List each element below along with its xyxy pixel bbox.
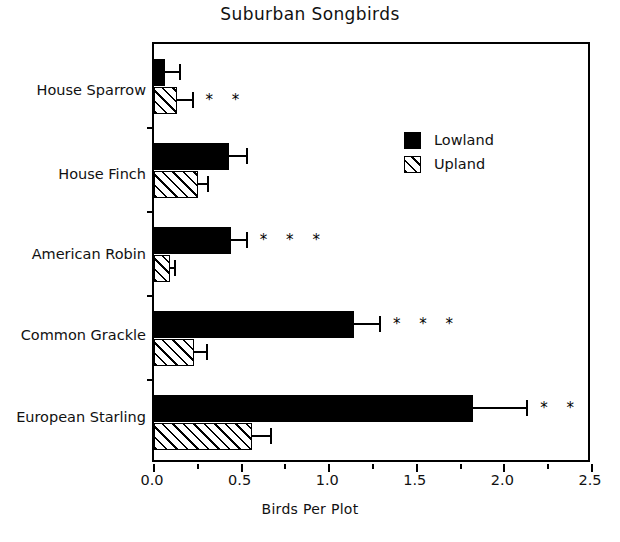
x-tick-label-1.5: 1.5 <box>385 472 445 488</box>
significance-stars: * * <box>540 401 581 416</box>
y-tick <box>147 127 154 129</box>
bar-upland-house-finch <box>154 171 198 198</box>
error-bar-line <box>252 435 271 437</box>
legend: Lowland Upland <box>404 128 494 176</box>
error-bar-cap <box>207 176 209 192</box>
x-tick-1.0 <box>328 464 330 472</box>
error-bar-line <box>229 155 247 157</box>
category-label-house-sparrow: House Sparrow <box>0 82 146 98</box>
chart-title: Suburban Songbirds <box>0 4 620 24</box>
x-tick-2.5 <box>591 464 593 472</box>
error-bar-cap <box>179 64 181 80</box>
bar-lowland-european-starling <box>154 395 473 422</box>
x-tick-minor <box>460 464 462 469</box>
legend-label-upland: Upland <box>434 156 485 172</box>
bar-lowland-common-grackle <box>154 311 354 338</box>
y-tick <box>147 295 154 297</box>
error-bar-cap <box>192 92 194 108</box>
x-tick-label-2.5: 2.5 <box>560 472 620 488</box>
x-tick-0.5 <box>241 464 243 472</box>
legend-swatch-upland-icon <box>404 156 421 173</box>
x-tick-minor <box>284 464 286 469</box>
category-label-common-grackle: Common Grackle <box>0 327 146 343</box>
error-bar-cap <box>246 148 248 164</box>
x-axis-title: Birds Per Plot <box>0 501 620 517</box>
legend-label-lowland: Lowland <box>434 132 494 148</box>
bar-lowland-house-finch <box>154 143 229 170</box>
legend-item-lowland: Lowland <box>404 128 494 152</box>
x-tick-minor <box>197 464 199 469</box>
error-bar-line <box>231 239 247 241</box>
error-bar-cap <box>174 260 176 276</box>
category-label-european-starling: European Starling <box>0 409 146 425</box>
x-tick-2.0 <box>503 464 505 472</box>
significance-stars: * * * <box>260 233 327 248</box>
x-tick-minor <box>372 464 374 469</box>
error-bar-cap <box>526 400 528 416</box>
error-bar-line <box>473 407 527 409</box>
plot-area: * ** * ** * ** * <box>152 42 590 462</box>
y-tick <box>147 211 154 213</box>
x-tick-label-1.0: 1.0 <box>297 472 357 488</box>
x-tick-1.5 <box>416 464 418 472</box>
chart-container: Suburban Songbirds * ** * ** * ** * Hous… <box>0 0 620 542</box>
category-label-house-finch: House Finch <box>0 166 146 182</box>
error-bar-cap <box>206 344 208 360</box>
bar-upland-american-robin <box>154 255 170 282</box>
error-bar-line <box>165 71 181 73</box>
x-tick-label-2.0: 2.0 <box>472 472 532 488</box>
x-tick-label-0.5: 0.5 <box>210 472 270 488</box>
error-bar-cap <box>270 428 272 444</box>
x-tick-0.0 <box>153 464 155 472</box>
y-tick <box>147 379 154 381</box>
significance-stars: * * * <box>393 317 460 332</box>
significance-stars: * * <box>206 93 247 108</box>
bar-lowland-american-robin <box>154 227 231 254</box>
category-label-american-robin: American Robin <box>0 246 146 262</box>
error-bar-cap <box>246 232 248 248</box>
bar-upland-european-starling <box>154 423 252 450</box>
bar-upland-house-sparrow <box>154 87 177 114</box>
error-bar-line <box>177 99 193 101</box>
error-bar-cap <box>379 316 381 332</box>
x-tick-label-0.0: 0.0 <box>122 472 182 488</box>
bar-upland-common-grackle <box>154 339 194 366</box>
legend-item-upland: Upland <box>404 152 494 176</box>
x-tick-minor <box>547 464 549 469</box>
error-bar-line <box>354 323 380 325</box>
legend-swatch-lowland-icon <box>404 132 421 149</box>
bar-lowland-house-sparrow <box>154 59 165 86</box>
